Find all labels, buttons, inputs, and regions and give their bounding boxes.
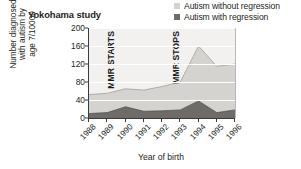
x-tick-mark (198, 118, 199, 122)
legend-swatch-light-icon (174, 3, 180, 9)
chart-title: Yokohama study (28, 9, 101, 20)
x-tick-mark (216, 118, 217, 122)
legend-label-autism-with-regression: Autism with regression (184, 13, 268, 22)
legend-swatch-dark-icon (174, 14, 180, 20)
gridline (89, 64, 235, 65)
x-tick-label: 1989 (97, 123, 116, 142)
x-tick-label: 1990 (116, 123, 135, 142)
annotation-mmr-stops: MMR STOPS (171, 31, 181, 84)
gridline (89, 28, 235, 29)
x-tick-label: 1994 (189, 123, 208, 142)
x-axis-title: Year of birth (88, 152, 234, 162)
legend-label-autism-without-regression: Autism without regression (184, 2, 280, 11)
gridline (89, 100, 235, 101)
y-axis-title: Number diagnosed with autism by age 7/10… (13, 0, 33, 82)
y-tick-label: 40 (57, 96, 85, 104)
x-tick-label: 1995 (207, 123, 226, 142)
x-tick-mark (234, 118, 235, 122)
legend-item-autism-with-regression: Autism with regression (174, 12, 280, 22)
x-tick-mark (106, 118, 107, 122)
x-tick-mark (125, 118, 126, 122)
chart-figure: Autism without regression Autism with re… (0, 0, 301, 169)
legend-item-autism-without-regression: Autism without regression (174, 1, 280, 11)
x-tick-label: 1991 (134, 123, 153, 142)
chart-legend: Autism without regression Autism with re… (174, 1, 280, 22)
x-axis-ticks: 198819891990199119921993199419951996 (88, 118, 234, 152)
x-tick-mark (143, 118, 144, 122)
x-tick-mark (161, 118, 162, 122)
annotation-mmr-starts: MMR STARTS (106, 31, 116, 89)
x-tick-mark (88, 118, 89, 122)
y-tick-label: 120 (57, 60, 85, 68)
y-axis-tick-labels: 04080120160200 (56, 28, 85, 118)
x-tick-mark (179, 118, 180, 122)
gridline (89, 82, 235, 83)
y-tick-label: 0 (57, 114, 85, 122)
y-tick-label: 80 (57, 78, 85, 86)
x-tick-label: 1988 (79, 123, 98, 142)
x-tick-label: 1992 (152, 123, 171, 142)
x-tick-label: 1993 (170, 123, 189, 142)
x-tick-label: 1996 (225, 123, 244, 142)
gridline (89, 46, 235, 47)
y-tick-label: 200 (57, 24, 85, 32)
y-tick-label: 160 (57, 42, 85, 50)
plot-area: MMR STARTS MMR STOPS (88, 28, 235, 119)
